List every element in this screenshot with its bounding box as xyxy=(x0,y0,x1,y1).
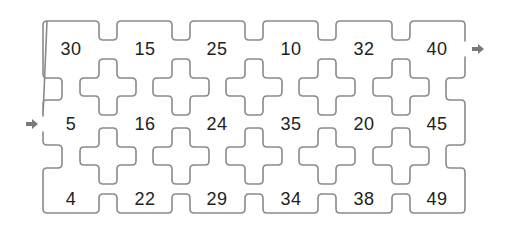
cross-wall-1-2 xyxy=(226,128,282,184)
cell-r1-c2[interactable]: 24 xyxy=(197,114,237,134)
cross-wall-1-3 xyxy=(299,128,355,184)
cross-wall-1-4 xyxy=(373,128,429,184)
cross-wall-0-2 xyxy=(226,59,282,115)
cell-r2-c5[interactable]: 49 xyxy=(417,189,457,209)
cell-r2-c3[interactable]: 34 xyxy=(271,189,311,209)
cell-r2-c1[interactable]: 22 xyxy=(125,189,165,209)
cross-wall-0-0 xyxy=(80,59,136,115)
cell-r0-c4[interactable]: 32 xyxy=(344,39,384,59)
cell-r0-c0[interactable]: 30 xyxy=(51,39,91,59)
cell-r1-c0[interactable]: 5 xyxy=(51,114,91,134)
cross-wall-1-1 xyxy=(153,128,209,184)
cross-wall-0-4 xyxy=(373,59,429,115)
cell-r0-c2[interactable]: 25 xyxy=(197,39,237,59)
cell-r0-c3[interactable]: 10 xyxy=(271,39,311,59)
cell-r2-c2[interactable]: 29 xyxy=(197,189,237,209)
cell-r2-c0[interactable]: 4 xyxy=(51,189,91,209)
cell-r1-c3[interactable]: 35 xyxy=(271,114,311,134)
maze-board: 30 15 25 10 32 40 5 16 24 35 20 45 4 22 … xyxy=(0,0,507,244)
cell-r1-c4[interactable]: 20 xyxy=(344,114,384,134)
cell-r1-c5[interactable]: 45 xyxy=(417,114,457,134)
end-arrow-icon xyxy=(472,44,484,54)
cross-wall-0-3 xyxy=(299,59,355,115)
cell-r0-c1[interactable]: 15 xyxy=(125,39,165,59)
cell-r1-c1[interactable]: 16 xyxy=(125,114,165,134)
cross-wall-1-0 xyxy=(80,128,136,184)
cross-wall-0-1 xyxy=(153,59,209,115)
cell-r0-c5[interactable]: 40 xyxy=(417,39,457,59)
cell-r2-c4[interactable]: 38 xyxy=(344,189,384,209)
start-arrow-icon xyxy=(26,119,38,129)
